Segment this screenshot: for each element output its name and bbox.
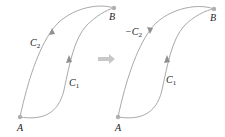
label-c2-left: C2 <box>30 37 41 50</box>
left-panel: A B C2 C1 <box>16 6 116 133</box>
point-a-right <box>116 115 120 119</box>
label-c1-left: C1 <box>69 77 80 90</box>
point-b-right <box>212 7 216 11</box>
transition-arrow-icon <box>98 54 115 64</box>
point-a-left <box>18 115 22 119</box>
label-c1-right: C1 <box>166 74 177 87</box>
right-panel: A B −C2 C1 <box>114 7 216 133</box>
label-b-right: B <box>210 12 216 23</box>
arrow-c2-up-icon <box>49 28 55 35</box>
label-a-left: A <box>16 122 24 133</box>
diagram: A B C2 C1 A B −C2 C1 <box>0 0 225 137</box>
label-a-right: A <box>114 122 122 133</box>
label-b-left: B <box>109 11 115 22</box>
point-b-left <box>112 6 116 10</box>
curve-c1 <box>20 8 114 118</box>
label-neg-c2-right: −C2 <box>125 26 142 39</box>
